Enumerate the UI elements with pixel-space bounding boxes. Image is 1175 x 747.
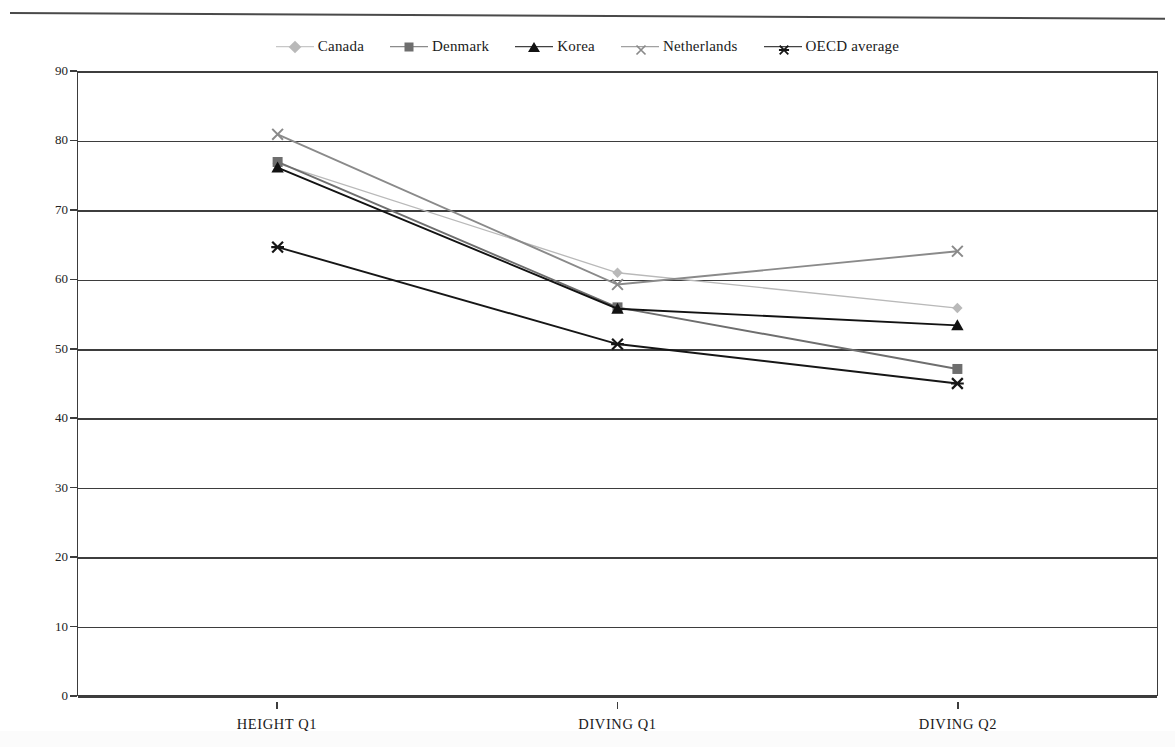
y-tick-label: 20	[28, 549, 68, 565]
y-tick-mark	[70, 626, 77, 628]
gridline	[78, 696, 1157, 698]
y-tick-mark	[70, 417, 77, 419]
chart-legend: Canada Denmark Korea Netherlands	[0, 38, 1175, 55]
y-tick-mark	[70, 487, 77, 489]
chart-page: Canada Denmark Korea Netherlands	[0, 0, 1175, 747]
x-marker-icon	[635, 42, 644, 51]
legend-item-canada: Canada	[276, 38, 364, 55]
y-tick-label: 30	[28, 480, 68, 496]
y-tick-mark	[70, 140, 77, 142]
legend-label-korea: Korea	[557, 38, 595, 55]
series-korea	[271, 162, 963, 331]
series-netherlands	[272, 129, 963, 290]
legend-label-oecd-average: OECD average	[806, 38, 900, 55]
y-tick-mark	[70, 209, 77, 211]
legend-item-denmark: Denmark	[390, 38, 489, 55]
square-marker-icon	[405, 42, 414, 51]
legend-label-canada: Canada	[318, 38, 364, 55]
y-tick-label: 90	[28, 63, 68, 79]
star-marker-icon	[271, 242, 284, 253]
page-bottom-margin	[0, 731, 1175, 747]
series-line	[278, 163, 958, 308]
series-oecd-average	[271, 242, 964, 389]
x-axis-tick-labels: HEIGHT Q1DIVING Q1DIVING Q2	[77, 702, 1158, 732]
y-axis-tick-labels: 9080706050403020100	[24, 71, 68, 696]
y-tick-mark	[70, 348, 77, 350]
x-marker-icon	[272, 129, 283, 140]
y-tick-label: 70	[28, 202, 68, 218]
legend-label-denmark: Denmark	[432, 38, 489, 55]
triangle-marker-icon	[528, 42, 540, 52]
legend-item-oecd-average: OECD average	[764, 38, 900, 55]
legend-item-korea: Korea	[515, 38, 595, 55]
series-denmark	[273, 157, 963, 374]
y-tick-mark	[70, 279, 77, 281]
y-tick-label: 10	[28, 619, 68, 635]
series-line	[278, 162, 958, 369]
header-divider-rule	[10, 12, 1165, 20]
star-marker-icon	[951, 378, 964, 389]
diamond-marker-icon	[612, 268, 622, 278]
y-tick-label: 0	[28, 688, 68, 704]
x-tick-mark	[957, 702, 959, 709]
legend-item-netherlands: Netherlands	[621, 38, 738, 55]
x-tick-mark	[276, 702, 278, 709]
y-tick-label: 50	[28, 341, 68, 357]
plot-area	[77, 71, 1158, 696]
legend-label-netherlands: Netherlands	[663, 38, 738, 55]
y-axis-title: Percent correct	[0, 244, 1, 330]
y-tick-label: 60	[28, 271, 68, 287]
series-canada	[272, 158, 962, 313]
diamond-marker-icon	[288, 40, 301, 53]
x-tick-mark	[617, 702, 619, 709]
y-tick-mark	[70, 695, 77, 697]
y-tick-mark	[70, 556, 77, 558]
diamond-marker-icon	[952, 303, 962, 313]
series-layer	[78, 72, 1157, 695]
y-tick-label: 40	[28, 410, 68, 426]
series-line	[278, 168, 958, 326]
star-marker-icon	[778, 42, 787, 51]
y-tick-mark	[70, 70, 77, 72]
star-marker-icon	[611, 339, 624, 350]
square-marker-icon	[952, 364, 962, 374]
y-tick-label: 80	[28, 132, 68, 148]
